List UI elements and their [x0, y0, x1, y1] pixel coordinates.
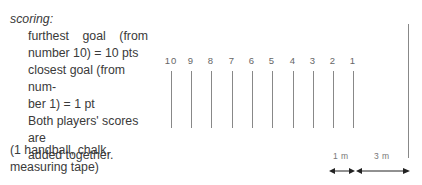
goal-line — [353, 71, 354, 128]
goal-line — [171, 71, 172, 128]
goal-line — [272, 71, 273, 128]
goal-number: 7 — [224, 55, 240, 66]
goal-number: 5 — [264, 55, 280, 66]
goal-number: 10 — [163, 55, 179, 66]
goal-line — [293, 71, 294, 128]
gap-dimension-label: 1 m — [333, 151, 349, 161]
throw-line — [408, 24, 409, 158]
throw-dimension-label: 3 m — [374, 151, 390, 161]
goal-number: 4 — [285, 55, 301, 66]
goal-line — [232, 71, 233, 128]
arrow-right-icon — [356, 167, 410, 175]
rule-line-3: closest goal (from num- — [28, 62, 148, 96]
equipment-line-1: (1 handball, chalk, — [10, 142, 110, 159]
double-arrow-icon — [329, 167, 355, 175]
goal-line — [211, 71, 212, 128]
rule-line-1: furthest goal (from — [28, 28, 148, 45]
goal-number: 1 — [345, 55, 361, 66]
goal-line — [333, 71, 334, 128]
rule-line-2: number 10) = 10 pts — [28, 45, 148, 62]
goal-line — [252, 71, 253, 128]
goal-number: 6 — [244, 55, 260, 66]
equipment-note: (1 handball, chalk, measuring tape) — [10, 142, 110, 176]
goal-number: 9 — [183, 55, 199, 66]
goal-number: 8 — [203, 55, 219, 66]
rule-line-4: ber 1) = 1 pt — [28, 96, 148, 113]
scoring-heading: scoring: — [10, 11, 148, 28]
goal-number: 2 — [325, 55, 341, 66]
goal-line — [191, 71, 192, 128]
goal-line — [313, 71, 314, 128]
goal-number: 3 — [305, 55, 321, 66]
equipment-line-2: measuring tape) — [10, 159, 110, 176]
